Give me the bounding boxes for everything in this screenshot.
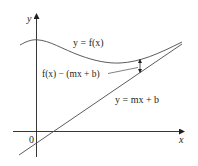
- x-axis-label: x: [178, 134, 184, 145]
- asymptote-label-text: y = mx + b: [115, 94, 159, 105]
- slant-asymptote-diagram: y x 0 y = f(x) y = mx + b f(x) − (mx + b…: [0, 0, 198, 166]
- difference-leader-line: [108, 68, 138, 74]
- curve-label: y = f(x): [73, 37, 104, 49]
- difference-label-text: f(x) − (mx + b): [42, 69, 100, 80]
- y-axis-label: y: [26, 13, 32, 24]
- origin-label: 0: [29, 134, 34, 145]
- asymptote-label: y = mx + b: [115, 94, 159, 105]
- difference-label: f(x) − (mx + b): [42, 69, 100, 80]
- curve-label-text: y = f(x): [73, 37, 104, 49]
